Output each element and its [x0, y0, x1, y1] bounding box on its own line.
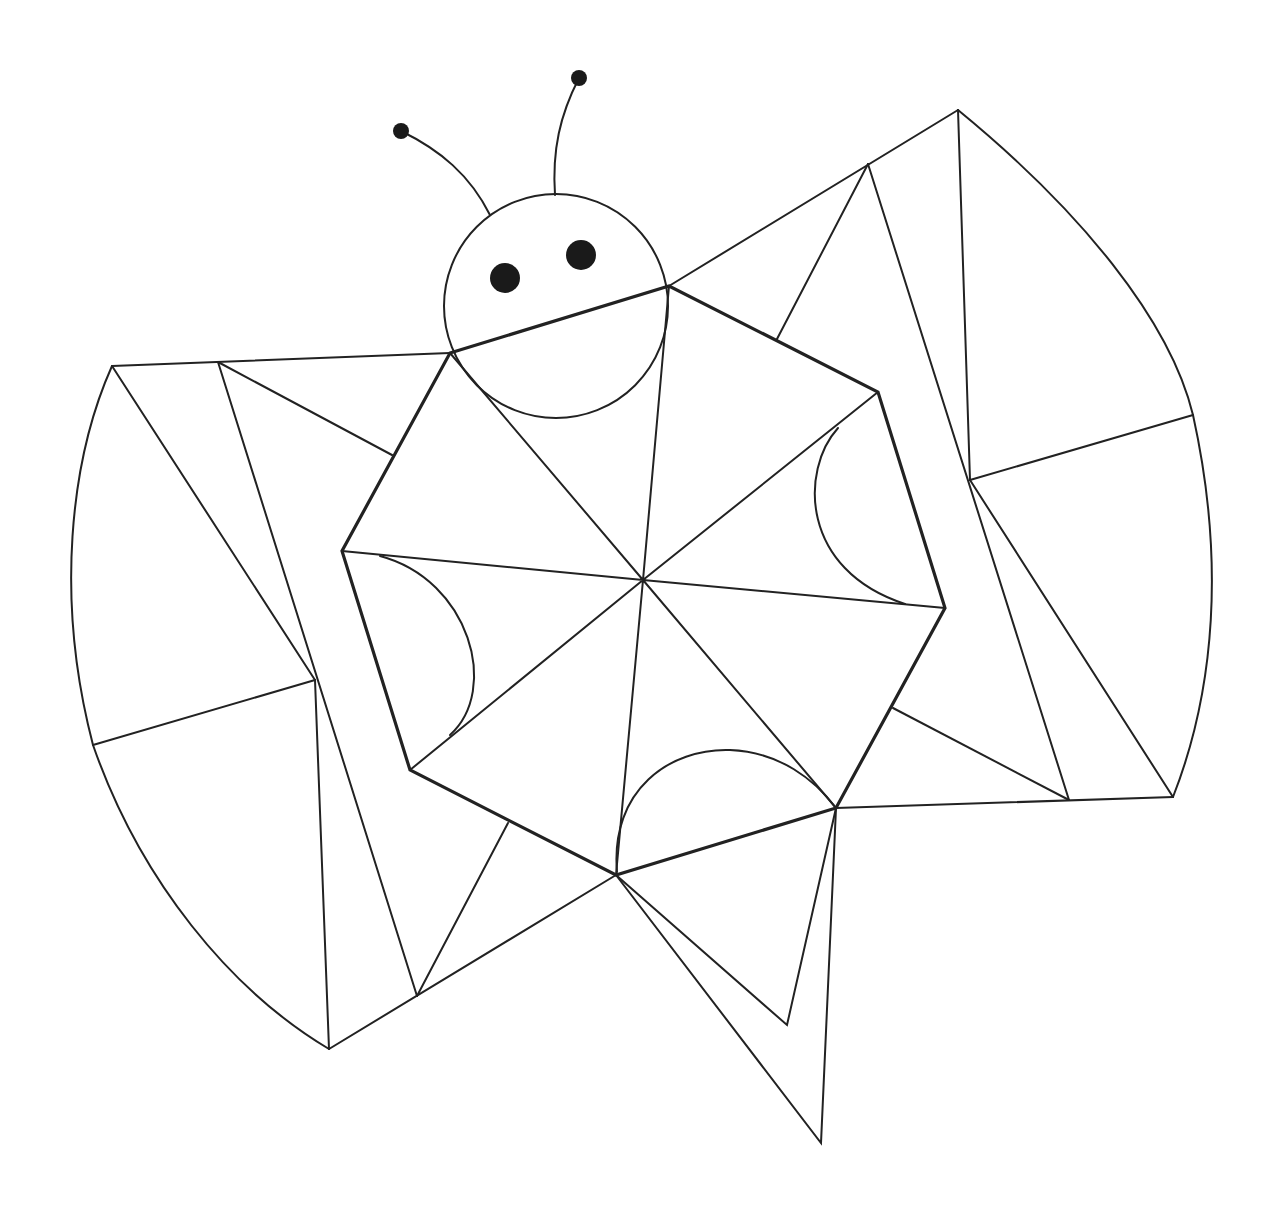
right-wing	[669, 110, 1212, 808]
butterfly-drawing	[0, 0, 1279, 1211]
right-semicircle	[815, 428, 905, 604]
right-eye	[566, 240, 596, 270]
right-antenna	[554, 78, 579, 195]
left-wing-arc	[71, 366, 329, 1049]
left-antenna-tip	[393, 123, 409, 139]
right-antenna-tip	[571, 70, 587, 86]
left-eye	[490, 263, 520, 293]
left-semicircle	[380, 556, 474, 735]
left-antenna	[401, 131, 490, 215]
tail	[616, 808, 836, 1143]
left-wing	[71, 353, 616, 1049]
right-wing-arc	[958, 110, 1212, 797]
